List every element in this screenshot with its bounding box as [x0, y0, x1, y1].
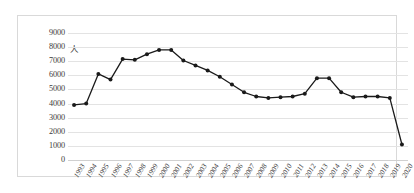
y-tick-label-3000: 3000: [25, 114, 65, 122]
data-point-2008: [254, 95, 258, 99]
data-point-2013: [315, 76, 319, 80]
data-point-2002: [181, 59, 185, 63]
chart-container: 9000800070006000500040003000200010000 人 …: [0, 0, 414, 193]
data-point-2000: [157, 48, 161, 52]
data-point-2004: [206, 68, 210, 72]
data-point-2009: [266, 96, 270, 100]
x-axis-tick-labels: 1993199419951996199719981999200020012002…: [68, 162, 408, 193]
data-point-1995: [96, 72, 100, 76]
data-point-2018: [376, 95, 380, 99]
data-point-1998: [133, 58, 137, 62]
plot-area: [68, 33, 408, 160]
data-point-1994: [84, 102, 88, 106]
data-point-1996: [109, 78, 113, 82]
data-point-2014: [327, 76, 331, 80]
data-point-1997: [121, 57, 125, 61]
y-tick-label-9000: 9000: [25, 29, 65, 37]
data-point-2012: [303, 92, 307, 96]
data-point-2019: [388, 96, 392, 100]
data-point-2007: [242, 90, 246, 94]
data-point-2020: [400, 142, 404, 146]
data-point-2006: [230, 83, 234, 87]
data-point-2003: [194, 63, 198, 67]
y-tick-label-4000: 4000: [25, 100, 65, 108]
line-series: [68, 33, 408, 160]
y-tick-label-8000: 8000: [25, 43, 65, 51]
gridline-0: [68, 160, 408, 161]
y-tick-label-1000: 1000: [25, 142, 65, 150]
y-tick-label-6000: 6000: [25, 71, 65, 79]
y-tick-label-0: 0: [25, 156, 65, 164]
y-tick-label-5000: 5000: [25, 85, 65, 93]
data-point-2010: [279, 95, 283, 99]
data-point-2016: [351, 95, 355, 99]
chart-frame: 9000800070006000500040003000200010000 人 …: [17, 15, 397, 177]
data-point-2011: [291, 95, 295, 99]
data-point-2015: [339, 90, 343, 94]
data-point-2005: [218, 75, 222, 79]
data-point-2017: [364, 95, 368, 99]
y-tick-label-2000: 2000: [25, 128, 65, 136]
y-axis-tick-labels: 9000800070006000500040003000200010000: [18, 33, 65, 160]
y-tick-label-7000: 7000: [25, 57, 65, 65]
data-point-2001: [169, 48, 173, 52]
data-point-1999: [145, 52, 149, 56]
data-point-1993: [72, 103, 76, 107]
